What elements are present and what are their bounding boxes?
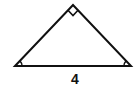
triangle-outline — [15, 5, 131, 66]
right-angle-mark — [68, 10, 78, 15]
triangle-diagram: 4 — [0, 0, 137, 91]
base-label: 4 — [71, 71, 79, 87]
triangle — [15, 5, 131, 66]
